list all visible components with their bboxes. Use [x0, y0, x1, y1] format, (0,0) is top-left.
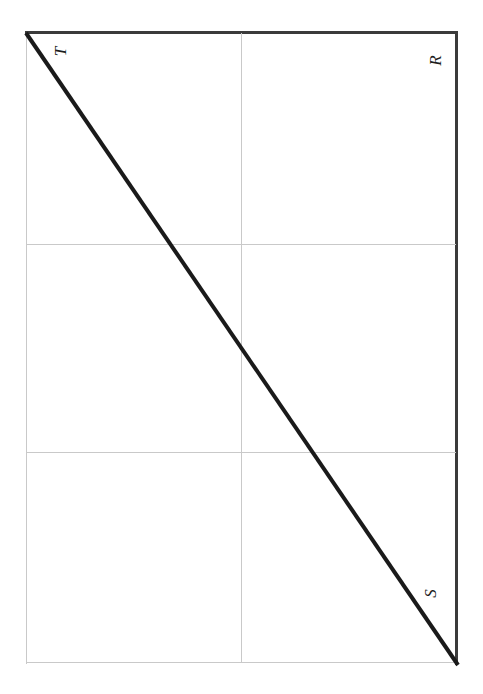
vertex-label-s: S	[422, 589, 439, 598]
vertex-label-t: T	[52, 47, 69, 56]
vertex-label-r: R	[427, 55, 444, 65]
diagonal-line	[22, 29, 462, 669]
gridline-horizontal-2	[26, 452, 456, 453]
plot-frame: T R S	[26, 33, 456, 663]
figure-canvas: T R S	[0, 0, 483, 694]
gridline-horizontal-1	[26, 244, 456, 245]
frame-edge-right	[455, 31, 458, 665]
frame-edge-left	[26, 33, 27, 664]
gridline-vertical-1	[241, 33, 242, 663]
